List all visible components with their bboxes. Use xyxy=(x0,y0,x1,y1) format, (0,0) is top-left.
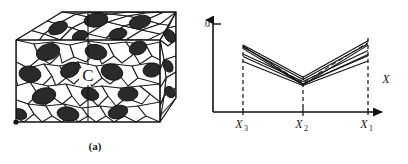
panel-a-microstructure: C (a) xyxy=(0,0,204,164)
x-tick-label-2-sub: 2 xyxy=(304,124,308,133)
x-tick-label-3-base: X xyxy=(234,117,243,131)
x-tick-label-3-sub: 3 xyxy=(244,124,248,133)
x-tick-label-1-base: X xyxy=(359,117,368,131)
cube-corner-dot xyxy=(13,119,18,124)
x-tick-label-2-base: X xyxy=(294,117,303,131)
panel-a-caption: (a) xyxy=(0,140,190,152)
y-tick-label-1: 1.0 xyxy=(204,18,210,29)
x-axis-title: X xyxy=(381,72,390,86)
figure-container: C (a) 1.0 X xyxy=(0,0,408,164)
c-marker-label: C xyxy=(82,66,93,85)
droplines xyxy=(243,38,368,110)
microstructure-cube-svg: C xyxy=(0,0,204,140)
x-tick-label-1-sub: 1 xyxy=(369,124,373,133)
x-tick-labels: X 3 X 2 X 1 xyxy=(234,117,373,133)
line-chart-svg: 1.0 X X 3 X 2 X xyxy=(204,0,408,140)
chart-curves xyxy=(243,41,368,86)
panel-b-chart: 1.0 X X 3 X 2 X xyxy=(204,0,408,164)
chart-series-curve-2-solid xyxy=(243,44,368,80)
